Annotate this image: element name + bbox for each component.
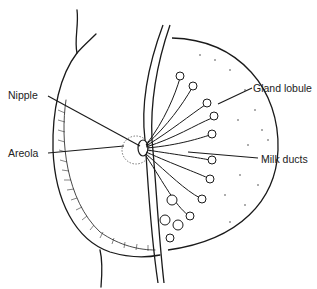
gland-lobule-leader-line <box>218 88 252 104</box>
label-milk-ducts: Milk ducts <box>261 153 308 165</box>
label-nipple: Nipple <box>8 89 38 101</box>
breast-anatomy-diagram: Nipple Areola Gland lobule Milk ducts <box>0 0 317 289</box>
diagram-illustration <box>0 0 317 289</box>
milk-ducts-leader-line <box>188 152 258 158</box>
label-gland-lobule: Gland lobule <box>253 82 312 94</box>
label-areola: Areola <box>8 147 38 159</box>
areola-leader-line <box>48 146 124 153</box>
